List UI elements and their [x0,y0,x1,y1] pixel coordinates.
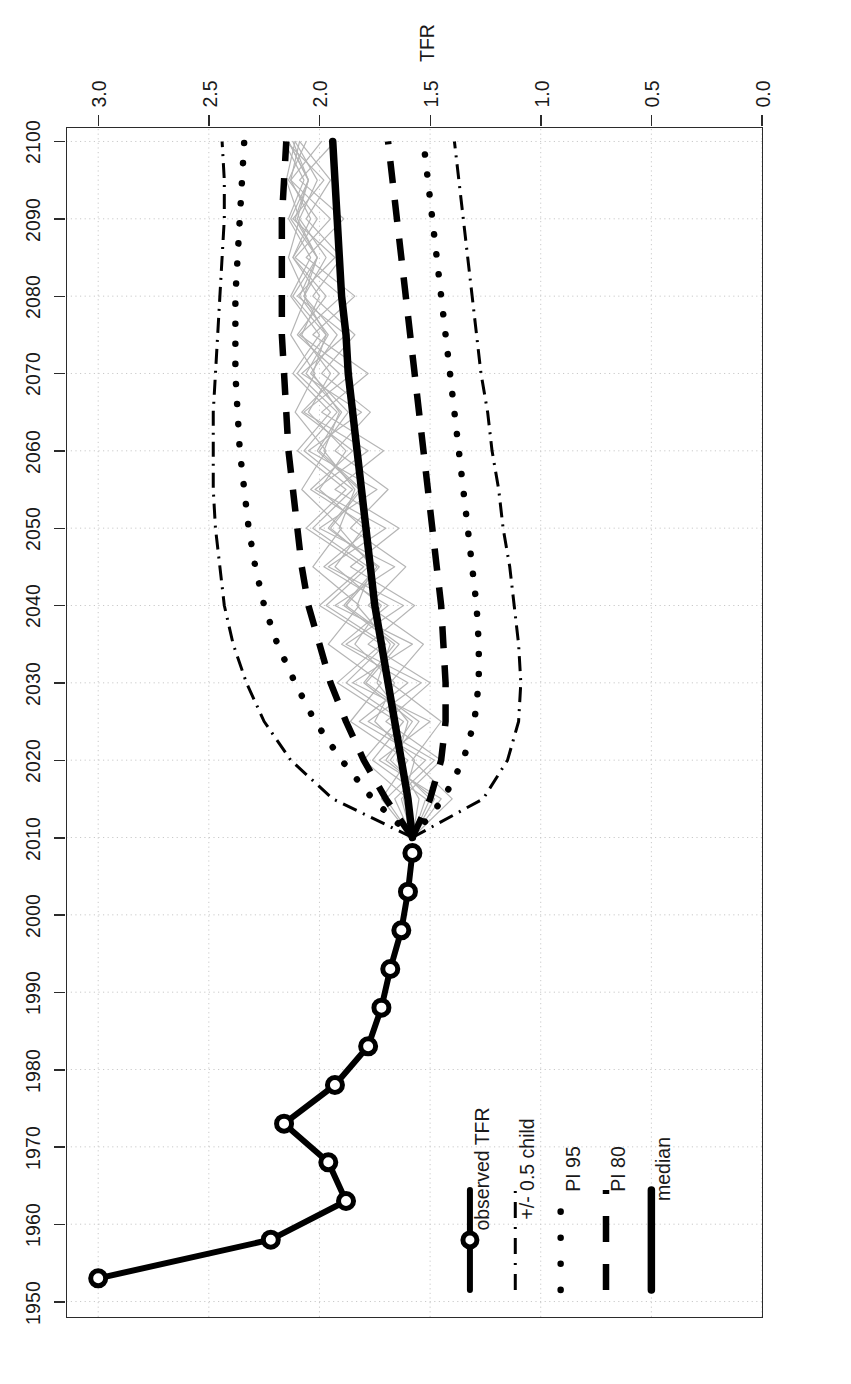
x-axis-tick [54,296,65,298]
x-axis-tick-label: 2090 [22,198,45,242]
legend-item-label: observed TFR [471,1107,494,1230]
x-axis-tick [54,837,65,839]
x-axis-tick [54,605,65,607]
x-axis-tick-label: 2060 [22,430,45,474]
x-axis-tick [54,682,65,684]
y-axis-tick [540,115,542,126]
x-axis-tick [54,1301,65,1303]
x-axis-tick-label: 2020 [22,739,45,783]
x-axis-tick [54,1069,65,1071]
y-axis-tick [98,115,100,126]
x-axis-tick-label: 2040 [22,584,45,628]
x-axis-tick [54,450,65,452]
x-axis-tick-label: 2070 [22,352,45,396]
x-axis-tick-label: 1950 [22,1280,45,1324]
plot-device: 1950196019701980199020002010202020302040… [0,0,851,1384]
x-axis-tick-label: 2100 [22,120,45,164]
x-axis-tick-label: 1990 [22,971,45,1015]
y-axis-tick [651,115,653,126]
x-axis-tick-label: 2050 [22,507,45,551]
legend-item-label: +/- 0.5 child [516,1118,539,1219]
y-axis-tick-label: 0.5 [641,80,664,107]
y-axis-title: TFR [415,24,438,62]
x-axis-tick [54,373,65,375]
x-axis-tick-label: 1960 [22,1203,45,1247]
x-axis-tick [54,992,65,994]
x-axis-tick [54,1146,65,1148]
y-axis-tick [430,115,432,126]
y-axis-tick [208,115,210,126]
x-axis-tick-label: 2010 [22,816,45,860]
y-axis-tick [761,115,763,126]
legend-key-marker [463,1233,477,1247]
x-axis-tick [54,760,65,762]
x-axis-tick-label: 1980 [22,1048,45,1092]
x-axis-tick [54,914,65,916]
x-axis-tick-label: 2080 [22,275,45,319]
x-axis-tick-label: 2030 [22,662,45,706]
x-axis-tick [54,1224,65,1226]
y-axis-tick-label: 2.5 [198,80,221,107]
x-axis-tick [54,218,65,220]
y-axis-tick-label: 2.0 [309,80,332,107]
y-axis-tick [319,115,321,126]
y-axis-tick-label: 1.0 [530,80,553,107]
legend-item-label: median [652,1137,675,1201]
x-axis-tick [54,528,65,530]
legend-item-label: PI 95 [562,1146,585,1192]
x-axis-tick-label: 1970 [22,1126,45,1170]
y-axis-tick-label: 1.5 [420,80,443,107]
y-axis-tick-label: 0.0 [752,80,775,107]
x-axis-tick-label: 2000 [22,894,45,938]
legend-item-label: PI 80 [607,1146,630,1192]
y-axis-tick-label: 3.0 [88,80,111,107]
x-axis-tick [54,141,65,143]
